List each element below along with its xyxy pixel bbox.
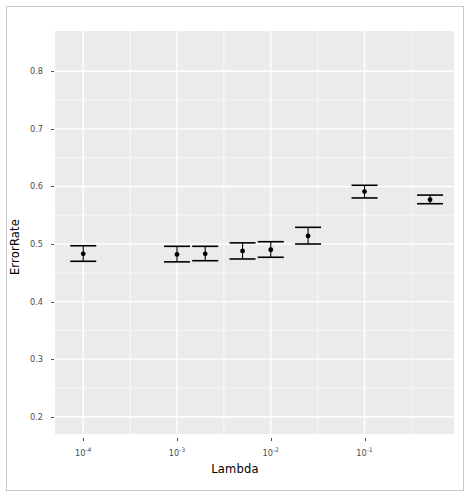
panel-background <box>55 31 454 434</box>
x-tick-mark <box>365 438 366 441</box>
y-tick-label: 0.8 <box>15 66 43 76</box>
x-tick-label: 10-3 <box>157 446 197 458</box>
y-tick-mark <box>51 71 54 72</box>
y-tick-mark <box>51 302 54 303</box>
data-point-marker <box>81 251 86 256</box>
y-tick-mark <box>51 244 54 245</box>
y-tick-label: 0.4 <box>15 297 43 307</box>
y-tick-label: 0.7 <box>15 124 43 134</box>
plot-area <box>0 0 470 497</box>
data-point-marker <box>175 252 180 257</box>
y-tick-mark <box>51 417 54 418</box>
y-tick-mark <box>51 129 54 130</box>
x-tick-label: 10-4 <box>63 446 103 458</box>
data-point-marker <box>362 189 367 194</box>
scatter-plot-with-error-bars <box>0 0 470 497</box>
y-tick-label: 0.3 <box>15 354 43 364</box>
x-tick-label: 10-2 <box>251 446 291 458</box>
y-tick-mark <box>51 359 54 360</box>
y-tick-mark <box>51 186 54 187</box>
data-point-marker <box>268 247 273 252</box>
y-tick-label: 0.6 <box>15 181 43 191</box>
data-point-marker <box>203 251 208 256</box>
data-point-marker <box>240 249 245 254</box>
data-point-marker <box>306 234 311 239</box>
chart-figure: ErrorRate Lambda 0.20.30.40.50.60.70.8 1… <box>0 0 470 497</box>
y-tick-label: 0.2 <box>15 412 43 422</box>
x-tick-label: 10-1 <box>345 446 385 458</box>
y-tick-label: 0.5 <box>15 239 43 249</box>
x-tick-mark <box>83 438 84 441</box>
data-point-marker <box>428 197 433 202</box>
x-axis-title: Lambda <box>0 462 470 476</box>
x-tick-mark <box>271 438 272 441</box>
x-tick-mark <box>177 438 178 441</box>
